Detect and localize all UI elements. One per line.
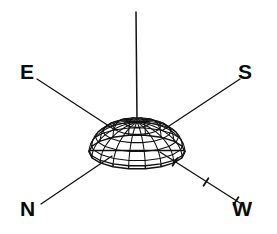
compass-label-s: S — [238, 60, 252, 83]
compass-label-n: N — [20, 197, 35, 220]
compass-label-e: E — [20, 60, 34, 83]
vertical-axis-group — [136, 12, 137, 120]
vertical-axis-line — [136, 12, 137, 120]
figure-root: ESNW — [0, 0, 277, 234]
dome-compass-diagram: ESNW — [0, 0, 277, 234]
compass-label-w: W — [232, 197, 252, 220]
